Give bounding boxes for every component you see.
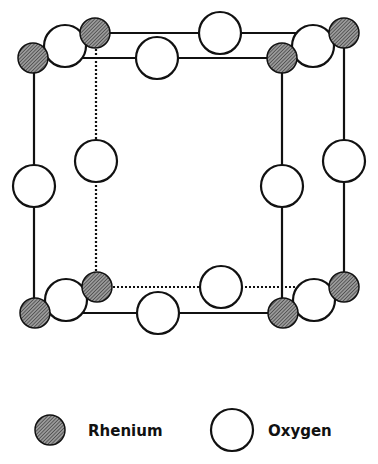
legend-oxygen-icon xyxy=(211,409,253,451)
legend-rhenium-icon xyxy=(35,415,65,445)
oxygen-atom-o-bottom-back-edge xyxy=(200,266,242,308)
oxygen-atom-o-top-right-depth xyxy=(292,25,334,67)
reo3-unit-cell-diagram: Rhenium Oxygen xyxy=(0,0,378,464)
rhenium-atom-re-front-bottom-right xyxy=(268,298,298,328)
oxygen-atom-o-top-front-edge xyxy=(136,37,178,79)
oxygen-atoms xyxy=(13,12,365,334)
oxygen-atom-o-right-front-vertical xyxy=(261,165,303,207)
rhenium-atom-re-front-bottom-left xyxy=(20,298,50,328)
oxygen-atom-o-left-back-vertical xyxy=(75,140,117,182)
rhenium-atom-re-back-bottom-right xyxy=(329,272,359,302)
rhenium-atom-re-front-top-left xyxy=(18,43,48,73)
rhenium-atom-re-back-bottom-left xyxy=(82,272,112,302)
oxygen-atom-o-top-back-edge xyxy=(199,12,241,54)
oxygen-atom-o-bottom-left-depth xyxy=(45,279,87,321)
legend-rhenium-label: Rhenium xyxy=(88,422,163,440)
hidden-bonds xyxy=(96,33,344,287)
oxygen-atom-o-left-front-vertical xyxy=(13,165,55,207)
oxygen-atom-o-right-back-vertical xyxy=(323,140,365,182)
rhenium-atom-re-back-top-left xyxy=(80,18,110,48)
legend: Rhenium Oxygen xyxy=(35,409,332,451)
legend-oxygen-label: Oxygen xyxy=(268,422,332,440)
rhenium-atom-re-back-top-right xyxy=(329,18,359,48)
rhenium-atom-re-front-top-right xyxy=(267,43,297,73)
oxygen-atom-o-bottom-front-edge xyxy=(137,292,179,334)
